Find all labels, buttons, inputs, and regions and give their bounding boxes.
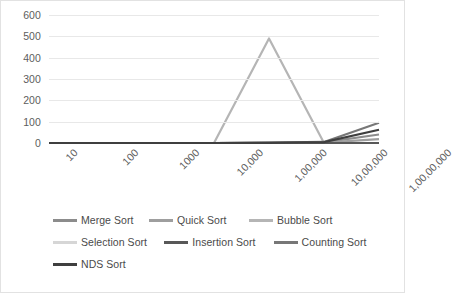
legend-item[interactable]: Counting Sort: [274, 236, 373, 248]
legend-row: Merge SortQuick SortBubble Sort: [53, 209, 373, 231]
x-axis-tick-label: 1,00,00,000: [406, 146, 454, 194]
gridline: [49, 36, 379, 37]
chart-container: 6005004003002001000 10100100010,0001,00,…: [0, 0, 405, 293]
y-axis-tick-label: 100: [23, 116, 41, 128]
legend-swatch-icon: [53, 219, 77, 222]
x-axis-tick-label: 1,00,000: [292, 146, 329, 183]
legend-swatch-icon: [53, 263, 77, 266]
legend-swatch-icon: [274, 241, 298, 244]
x-axis: 10100100010,0001,00,00010,00,0001,00,00,…: [49, 145, 379, 195]
legend-item[interactable]: Quick Sort: [149, 214, 249, 226]
x-axis-tick-label: 10,00,000: [348, 146, 390, 188]
x-axis-tick-label: 1000: [176, 146, 201, 171]
legend-swatch-icon: [249, 219, 273, 222]
legend-item[interactable]: Selection Sort: [53, 236, 164, 248]
legend-label: Merge Sort: [81, 214, 133, 226]
gridline: [49, 15, 379, 16]
plot-area: [49, 15, 379, 143]
legend-item[interactable]: Insertion Sort: [164, 236, 273, 248]
y-axis-tick-label: 0: [35, 137, 41, 149]
y-axis-tick-label: 400: [23, 52, 41, 64]
series-line: [49, 38, 379, 143]
y-axis-tick-label: 500: [23, 30, 41, 42]
x-axis-tick-label: 10: [63, 146, 80, 163]
legend-label: Bubble Sort: [277, 214, 332, 226]
legend-label: NDS Sort: [81, 258, 126, 270]
y-axis: 6005004003002001000: [1, 15, 45, 143]
legend-item[interactable]: Merge Sort: [53, 214, 149, 226]
legend-label: Quick Sort: [177, 214, 227, 226]
legend-label: Insertion Sort: [192, 236, 255, 248]
legend-row: NDS Sort: [53, 253, 373, 275]
y-axis-tick-label: 600: [23, 9, 41, 21]
legend-label: Counting Sort: [302, 236, 367, 248]
legend-label: Selection Sort: [81, 236, 147, 248]
legend-row: Selection SortInsertion SortCounting Sor…: [53, 231, 373, 253]
y-axis-tick-label: 200: [23, 94, 41, 106]
gridline: [49, 79, 379, 80]
legend-item[interactable]: Bubble Sort: [249, 214, 349, 226]
gridline: [49, 122, 379, 123]
chart-legend: Merge SortQuick SortBubble SortSelection…: [53, 209, 373, 275]
gridline: [49, 58, 379, 59]
y-axis-tick-label: 300: [23, 73, 41, 85]
x-axis-tick-label: 100: [120, 146, 141, 167]
legend-swatch-icon: [149, 219, 173, 222]
gridline: [49, 100, 379, 101]
legend-swatch-icon: [53, 241, 77, 244]
legend-item[interactable]: NDS Sort: [53, 258, 149, 270]
x-axis-tick-label: 10,000: [234, 146, 265, 177]
legend-swatch-icon: [164, 241, 188, 244]
